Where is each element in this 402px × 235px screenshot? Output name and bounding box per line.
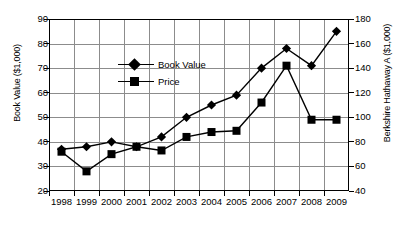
y-axis-left-tick-label: 60 [8, 88, 48, 98]
axis-tick-mark [74, 191, 75, 196]
y-axis-right-tick-label: 100 [355, 112, 395, 122]
chart-container: Book Value ($1,000) Berkshire Hathaway A… [0, 0, 402, 235]
axis-tick-mark [49, 191, 50, 196]
axis-tick-mark [274, 191, 275, 196]
y-axis-right-tick-label: 180 [355, 14, 395, 24]
legend-item-book-value: Book Value [118, 56, 206, 73]
y-axis-left-tick-label: 20 [8, 186, 48, 196]
axis-tick-mark [349, 43, 354, 44]
y-axis-left-tick-label: 80 [8, 39, 48, 49]
axis-tick-mark [149, 191, 150, 196]
y-axis-right-tick-label: 140 [355, 63, 395, 73]
y-axis-right-tick-label: 120 [355, 88, 395, 98]
axis-tick-mark [349, 141, 354, 142]
y-axis-left-tick-label: 40 [8, 137, 48, 147]
y-axis-left-tick-label: 30 [8, 161, 48, 171]
axis-tick-mark [44, 19, 49, 20]
axis-tick-mark [299, 191, 300, 196]
gridline-vertical [174, 20, 175, 190]
y-axis-left-title: Book Value ($1,000) [12, 13, 22, 153]
y-axis-left-tick-label: 50 [8, 112, 48, 122]
legend-item-price: Price [118, 73, 206, 90]
axis-tick-mark [349, 19, 354, 20]
gridline-vertical [249, 20, 250, 190]
axis-tick-mark [44, 141, 49, 142]
gridline-vertical [149, 20, 150, 190]
axis-tick-mark [349, 68, 354, 69]
plot-area [49, 19, 349, 191]
chart-legend: Book Value Price [118, 56, 206, 90]
gridline-vertical [74, 20, 75, 190]
axis-tick-mark [99, 191, 100, 196]
axis-tick-mark [44, 43, 49, 44]
axis-tick-mark [224, 191, 225, 196]
axis-tick-mark [124, 191, 125, 196]
axis-tick-mark [44, 117, 49, 118]
square-marker-icon [118, 76, 154, 88]
axis-tick-mark [324, 191, 325, 196]
gridline-vertical [274, 20, 275, 190]
axis-tick-mark [44, 166, 49, 167]
y-axis-right-title: Berkshire Hathaway A ($1,000) [382, 8, 392, 158]
diamond-marker-icon [118, 59, 154, 71]
y-axis-right-tick-label: 160 [355, 39, 395, 49]
axis-tick-mark [349, 191, 354, 192]
axis-tick-mark [349, 117, 354, 118]
axis-tick-mark [174, 191, 175, 196]
legend-label: Book Value [158, 59, 206, 70]
axis-tick-mark [349, 166, 354, 167]
axis-tick-mark [349, 92, 354, 93]
y-axis-left-tick-label: 70 [8, 63, 48, 73]
y-axis-left-tick-label: 90 [8, 14, 48, 24]
gridline-vertical [224, 20, 225, 190]
gridline-vertical [299, 20, 300, 190]
x-axis-tick-label: 2009 [317, 197, 357, 207]
axis-tick-mark [44, 92, 49, 93]
gridline-vertical [324, 20, 325, 190]
y-axis-right-tick-label: 60 [355, 161, 395, 171]
gridline-vertical [199, 20, 200, 190]
gridline-vertical [99, 20, 100, 190]
axis-tick-mark [249, 191, 250, 196]
axis-tick-mark [44, 68, 49, 69]
axis-tick-mark [199, 191, 200, 196]
y-axis-right-tick-label: 80 [355, 137, 395, 147]
y-axis-right-tick-label: 40 [355, 186, 395, 196]
legend-label: Price [158, 76, 180, 87]
gridline-vertical [124, 20, 125, 190]
